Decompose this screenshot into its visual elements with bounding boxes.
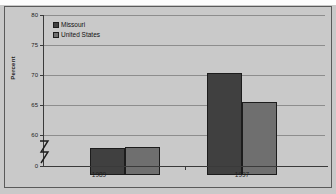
chart-figure: Percent 80 75 70 65 60 0 <box>0 0 336 194</box>
y-tick-mark-80 <box>40 15 44 16</box>
chart-legend: Missouri United States <box>53 20 115 40</box>
y-tick-label-80: 80 <box>22 12 38 18</box>
legend-label-missouri: Missouri <box>61 21 85 28</box>
y-axis-label: Percent <box>10 43 16 93</box>
y-tick-mark-65 <box>40 105 44 106</box>
legend-item-united-states: United States <box>53 30 115 39</box>
legend-swatch-united-states-icon <box>53 32 59 38</box>
x-tick-label-1989: 1989 <box>79 171 119 179</box>
bar-missouri-1997 <box>207 73 242 175</box>
legend-item-missouri: Missouri <box>53 20 115 29</box>
axis-break-icon <box>37 139 51 165</box>
y-tick-mark-60 <box>40 135 44 136</box>
y-tick-mark-70 <box>40 75 44 76</box>
x-tick-label-1997: 1997 <box>222 171 262 179</box>
bar-united-states-1997 <box>242 102 277 175</box>
gridline-60 <box>43 135 325 136</box>
y-tick-label-75: 75 <box>22 42 38 48</box>
y-tick-mark-0 <box>40 166 44 167</box>
chart-title-strip <box>0 0 336 5</box>
x-tick-mark-mid <box>185 167 186 170</box>
gridline-65 <box>43 105 325 106</box>
gridline-80 <box>43 15 325 16</box>
chart-plot-frame: Percent 80 75 70 65 60 0 <box>4 6 332 188</box>
y-tick-mark-75 <box>40 45 44 46</box>
y-tick-label-60: 60 <box>22 132 38 138</box>
bar-united-states-1989 <box>125 147 160 175</box>
legend-label-united-states: United States <box>61 31 100 38</box>
legend-swatch-missouri-icon <box>53 22 59 28</box>
y-tick-label-70: 70 <box>22 72 38 78</box>
y-tick-label-0: 0 <box>22 163 38 169</box>
gridline-75 <box>43 45 325 46</box>
y-tick-label-65: 65 <box>22 102 38 108</box>
gridline-70 <box>43 75 325 76</box>
